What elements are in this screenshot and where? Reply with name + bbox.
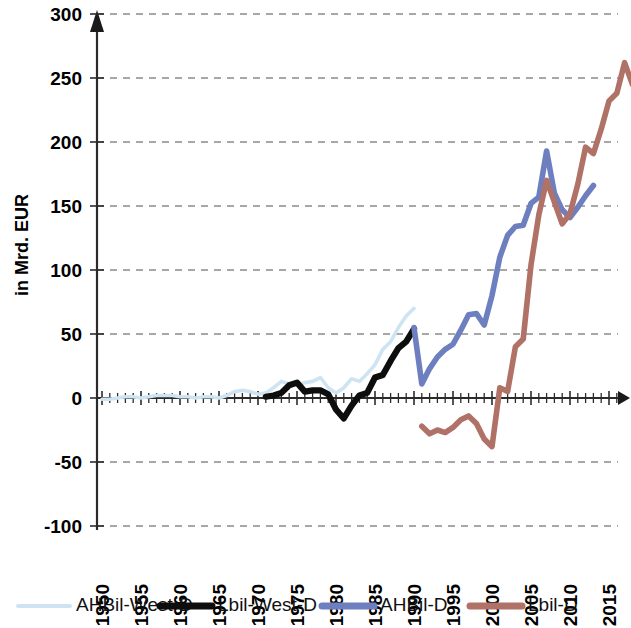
- legend-label-lbil-d: Lbil-D: [528, 594, 578, 615]
- x-axis-arrowhead: [618, 391, 630, 405]
- x-axis-tick-label: 2015: [599, 584, 620, 627]
- chart-root: 300250200150100500-50-100 19501955196019…: [0, 0, 631, 628]
- series-line-ahbil-d: [414, 151, 593, 384]
- y-axis-tick-label: 150: [50, 196, 82, 217]
- legend-label-lbil-west-d: Lbil-West-D: [218, 594, 317, 615]
- y-axis-tick-label: 0: [71, 388, 82, 409]
- y-axis-tick-label: 200: [50, 132, 82, 153]
- y-axis-tick-label: 300: [50, 4, 82, 25]
- gridlines: [97, 14, 618, 526]
- legend-label-ahbil-d: AHBil-D: [380, 594, 448, 615]
- y-axis-tick-label: 50: [61, 324, 82, 345]
- y-axis-title-label: in Mrd. EUR: [12, 194, 32, 296]
- series-line-lbil-d: [422, 63, 631, 447]
- y-axis-tick-labels: 300250200150100500-50-100: [44, 4, 82, 537]
- y-axis-tick-label: 100: [50, 260, 82, 281]
- series-line-ahbil-west-d: [102, 308, 414, 399]
- y-axis-tick-label: -100: [44, 516, 82, 537]
- y-axis-tick-label: -50: [55, 452, 82, 473]
- y-axis-title: in Mrd. EUR: [12, 194, 32, 296]
- line-chart: 300250200150100500-50-100 19501955196019…: [0, 0, 631, 628]
- y-axis-tick-label: 250: [50, 68, 82, 89]
- data-series: [102, 63, 631, 447]
